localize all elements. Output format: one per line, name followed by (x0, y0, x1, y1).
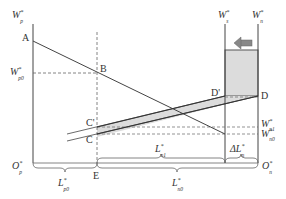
label-origin-p: O*p (12, 160, 22, 175)
line-c-d-bold (97, 96, 258, 134)
label-wn-axis: W*n (252, 9, 263, 24)
label-wp0: W*p0 (10, 66, 24, 81)
point-d-prime: D' (211, 87, 220, 98)
label-lp0: L*p0 (57, 177, 69, 192)
point-a: A (22, 32, 30, 43)
label-dln: ΔL*n (229, 143, 244, 158)
brace-lp0 (33, 163, 97, 172)
label-origin-n: O*n (262, 160, 272, 175)
point-b: B (100, 63, 107, 74)
point-c-prime: C' (86, 117, 95, 128)
label-ws-axis: W*s (218, 9, 229, 24)
line-c-prime-d-prime-bold (97, 96, 225, 127)
point-e: E (93, 170, 99, 181)
left-arrow-icon (234, 37, 252, 49)
shaded-rectangle (225, 50, 258, 96)
label-wp-axis: W*p (12, 9, 23, 24)
brace-ln0 (97, 163, 258, 172)
point-c: C (86, 134, 93, 145)
point-d: D (261, 90, 268, 101)
bottom-braces (33, 154, 258, 172)
label-ln0: L*n0 (171, 177, 183, 192)
label-ln1: L*n1 (154, 143, 166, 158)
labor-market-diagram: W*p W*s W*n O*p O*n A B C' C D' D E W*p0… (0, 0, 286, 199)
